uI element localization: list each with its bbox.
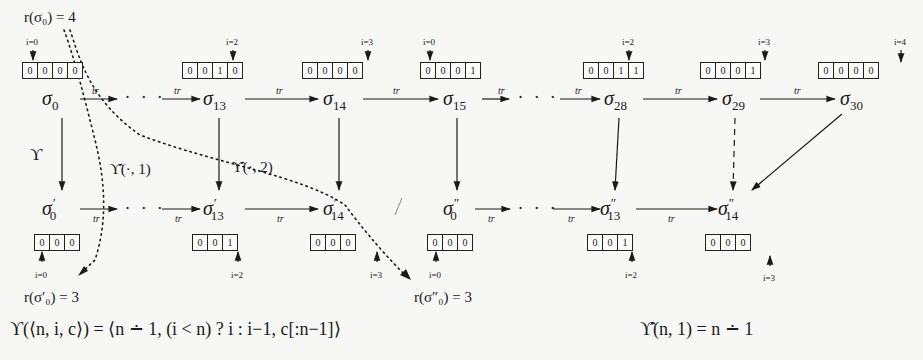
array-cell: 0	[603, 235, 618, 250]
state-sigma-15: σ15	[443, 88, 466, 112]
upsilon-hat-1-label: ϒ̂(·, 1)	[110, 162, 151, 177]
array-cell: 0	[318, 63, 333, 78]
array-cell: 0	[303, 63, 318, 78]
array-cell: 1	[629, 63, 643, 78]
tr-label: tr	[675, 86, 682, 96]
array-cell: 0	[436, 63, 451, 78]
array-cell: 0	[599, 63, 614, 78]
array-cell: 0	[716, 63, 731, 78]
index-label-b14: i=3	[370, 271, 382, 280]
diagram-canvas	[0, 0, 923, 360]
index-label-a29: i=3	[758, 38, 770, 47]
tr-label: tr	[498, 86, 505, 96]
ellipsis-bottom-1: · · ·	[125, 201, 165, 217]
array-cell: 0	[819, 63, 834, 78]
index-label-a0: i=0	[26, 38, 38, 47]
state-sigma-prime-13: σ′13	[203, 196, 224, 222]
array-cell: 0	[311, 235, 326, 250]
array-c13: 0 0 1	[587, 234, 633, 251]
dashed-arrow-s29-q14	[733, 118, 735, 190]
array-cell: 0	[35, 235, 50, 250]
state-sigma-dprime-14: σ″14	[718, 196, 738, 222]
array-cell: 0	[65, 235, 79, 250]
array-cell: 0	[348, 63, 362, 78]
tr-label: tr	[488, 214, 495, 224]
array-a30: 0 0 0 0	[818, 62, 879, 79]
array-cell: 1	[746, 63, 760, 78]
tr-label: tr	[276, 86, 283, 96]
ellipsis-top-2: · · ·	[518, 90, 558, 106]
array-cell: 0	[421, 63, 436, 78]
array-cell: 0	[443, 235, 458, 250]
ellipsis-bottom-2: · · ·	[518, 201, 558, 217]
state-sigma-13: σ13	[203, 88, 226, 112]
dotted-arrowhead-2	[400, 269, 411, 280]
state-sigma-dprime-13: σ″13	[600, 196, 620, 222]
array-a14: 0 0 0 0	[302, 62, 363, 79]
array-b13: 0 0 1	[192, 234, 238, 251]
array-cell: 1	[466, 63, 480, 78]
arrow-s30-q14	[752, 114, 842, 190]
arrow-s28-q13	[615, 118, 619, 190]
array-cell: 0	[451, 63, 466, 78]
tr-label: tr	[575, 86, 582, 96]
index-label-a15: i=0	[423, 38, 435, 47]
tr-label: tr	[92, 86, 99, 96]
array-cell: 0	[208, 235, 223, 250]
state-sigma-30: σ30	[840, 88, 863, 112]
array-cell: 0	[588, 235, 603, 250]
array-cell: 0	[428, 235, 443, 250]
array-cell: 0	[198, 63, 213, 78]
array-cell: 0	[864, 63, 878, 78]
array-c14: 0 0 0	[705, 234, 751, 251]
array-cell: 1	[614, 63, 629, 78]
array-cell: 1	[223, 235, 237, 250]
array-b0: 0 0 0	[34, 234, 80, 251]
tr-label: tr	[794, 86, 801, 96]
array-cell: 0	[193, 235, 208, 250]
bottom-pointers	[42, 252, 770, 266]
rank-sigma0-prime-label: r(σ′₀) = 3	[24, 290, 79, 305]
array-b14: 0 0 0	[310, 234, 356, 251]
rank-sigma0-label: r(σ₀) = 4	[24, 10, 76, 25]
index-label-a28: i=2	[622, 38, 634, 47]
array-cell: 0	[706, 235, 721, 250]
state-sigma-prime-14: σ′14	[323, 196, 344, 222]
state-sigma-0: σ0	[42, 88, 58, 112]
index-label-a14: i=3	[361, 38, 373, 47]
tr-label: tr	[174, 86, 181, 96]
formula-upsilon-hat-definition: ϒ̂(n, 1) = n ∸ 1	[640, 320, 753, 338]
index-label-a13: i=2	[226, 38, 238, 47]
array-cell: 0	[731, 63, 746, 78]
array-cell: 0	[341, 235, 355, 250]
array-cell: 0	[458, 235, 472, 250]
formula-upsilon-definition: ϒ(⟨n, i, c⟩) = ⟨n ∸ 1, (i < n) ? i : i−1…	[10, 320, 341, 338]
array-cell: 0	[721, 235, 736, 250]
array-a15: 0 0 0 1	[420, 62, 481, 79]
array-c0: 0 0 0	[427, 234, 473, 251]
tr-label: tr	[668, 214, 675, 224]
array-cell: 0	[333, 63, 348, 78]
top-pointers	[33, 50, 901, 62]
state-sigma-dprime-0: σ″0	[443, 196, 457, 222]
array-cell: 1	[213, 63, 228, 78]
rank-sigma0-dprime-label: r(σ″₀) = 3	[414, 290, 472, 305]
array-a13: 0 0 1 0	[182, 62, 243, 79]
index-label-b13: i=2	[231, 271, 243, 280]
array-cell: 0	[736, 235, 750, 250]
array-cell: 0	[23, 63, 38, 78]
index-label-a30: i=4	[894, 38, 906, 47]
index-label-b0: i=0	[35, 271, 47, 280]
index-label-c13: i=2	[625, 271, 637, 280]
array-cell: 0	[183, 63, 198, 78]
array-cell: 0	[38, 63, 53, 78]
array-cell: 0	[584, 63, 599, 78]
state-sigma-prime-0: σ′0	[42, 196, 56, 222]
state-sigma-29: σ29	[722, 88, 745, 112]
array-cell: 0	[326, 235, 341, 250]
array-cell: 0	[53, 63, 68, 78]
array-a29: 0 0 0 1	[700, 62, 761, 79]
vertical-mappings	[62, 114, 842, 190]
state-sigma-28: σ28	[604, 88, 627, 112]
tr-label: tr	[93, 214, 100, 224]
